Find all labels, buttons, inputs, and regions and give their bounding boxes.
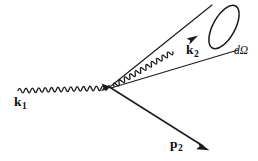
label-k1-symbol: k <box>14 94 22 109</box>
recoil-electron-ray <box>111 88 203 146</box>
label-recoil-electron: p2 <box>170 137 183 153</box>
label-k1-subscript: 1 <box>22 101 27 111</box>
diagram-canvas <box>0 0 258 161</box>
label-scattered-photon: k2 <box>186 43 199 59</box>
incident-photon-wave <box>18 86 111 93</box>
cone-lower-edge <box>111 50 238 88</box>
label-incident-photon: k1 <box>14 95 27 111</box>
label-p2-symbol: p <box>170 136 178 151</box>
scattered-photon-wave <box>113 50 174 88</box>
label-k2-symbol: k <box>186 42 194 57</box>
label-k2-subscript: 2 <box>194 49 199 59</box>
label-solid-angle: dΩ <box>234 45 248 57</box>
scattered-photon-group <box>113 50 174 88</box>
label-p2-subscript: 2 <box>178 143 183 153</box>
compton-scattering-diagram: k1 k2 p2 dΩ <box>0 0 258 161</box>
recoil-electron-arrowhead <box>196 142 209 151</box>
